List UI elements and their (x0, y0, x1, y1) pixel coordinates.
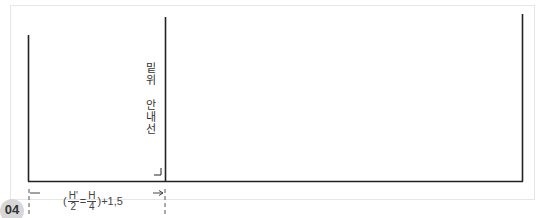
formula-fraction-1: H' 2 (68, 191, 79, 212)
formula-close: )+1,5 (97, 195, 122, 207)
dimension-formula: ( H' 2 = H 4 )+1,5 (63, 188, 123, 214)
dimension-arrow-right (153, 191, 163, 196)
fraction-2-numerator: H (87, 191, 96, 202)
right-angle-marker (154, 168, 161, 175)
fraction-2-denominator: 4 (89, 202, 95, 212)
step-number-badge: 04 (0, 199, 24, 218)
formula-fraction-2: H 4 (87, 191, 96, 212)
formula-open: ( (63, 195, 67, 207)
fraction-1-numerator: H' (68, 191, 79, 202)
crotch-guide-label: 밑위 안내선 (142, 62, 156, 135)
fraction-1-denominator: 2 (70, 202, 76, 212)
formula-operator: = (80, 195, 86, 207)
pattern-diagram (0, 0, 540, 218)
